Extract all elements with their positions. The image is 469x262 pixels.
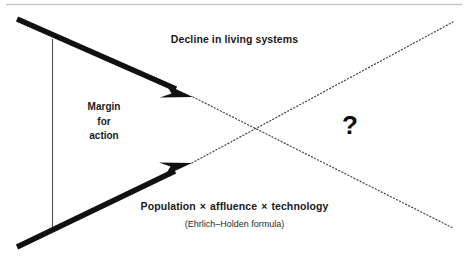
formula-operator-1: ×: [196, 200, 210, 212]
label-margin-for-action: Margin for action: [60, 100, 148, 144]
label-formula-attribution: (Ehrlich–Holden formula): [0, 219, 469, 230]
arrow-down-right-thick-icon: [17, 19, 193, 98]
label-impact-formula: Population × affluence × technology: [0, 200, 469, 212]
formula-term-technology: technology: [271, 200, 328, 212]
formula-term-population: Population: [141, 200, 196, 212]
diagram-canvas: Decline in living systems Margin for act…: [0, 0, 469, 262]
label-decline-in-living-systems: Decline in living systems: [0, 33, 469, 45]
label-margin-line-2: for: [60, 115, 148, 130]
formula-term-affluence: affluence: [210, 200, 257, 212]
label-margin-line-3: action: [60, 129, 148, 144]
label-question-mark: ?: [330, 110, 370, 141]
label-margin-line-1: Margin: [60, 100, 148, 115]
formula-operator-2: ×: [257, 200, 271, 212]
